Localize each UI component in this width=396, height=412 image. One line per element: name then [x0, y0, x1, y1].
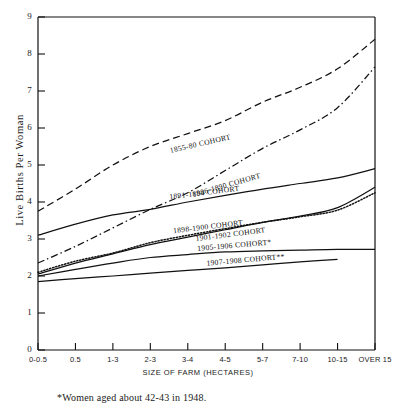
chart-canvas: 1855-80 COHORT1886-1890 COHORT1891-1894 …	[0, 0, 396, 412]
chart-footnote: *Women aged about 42-43 in 1948.	[57, 392, 206, 403]
chart-figure: Live Births Per Woman 1855-80 COHORT1886…	[0, 0, 396, 412]
y-tick-5: 5	[16, 159, 32, 169]
y-tick-6: 6	[16, 122, 32, 132]
y-tick-0: 0	[16, 344, 32, 354]
y-tick-2: 2	[16, 270, 32, 280]
series-label-6: 1907-1908 COHORT**	[206, 252, 285, 268]
x-tick-over-15: OVER 15	[345, 355, 396, 364]
y-tick-1: 1	[16, 307, 32, 317]
chart-series-labels: 1855-80 COHORT1886-1890 COHORT1891-1894 …	[169, 132, 285, 267]
series-label-0: 1855-80 COHORT	[169, 132, 232, 155]
y-tick-3: 3	[16, 233, 32, 243]
y-tick-7: 7	[16, 85, 32, 95]
x-axis-ticks	[38, 343, 375, 350]
chart-axes	[38, 17, 375, 350]
y-tick-8: 8	[16, 48, 32, 58]
y-axis-ticks	[38, 17, 45, 350]
y-tick-4: 4	[16, 196, 32, 206]
y-tick-9: 9	[16, 11, 32, 21]
series-line-6	[38, 259, 338, 281]
x-axis-title: SIZE OF FARM (HECTARES)	[0, 368, 396, 377]
